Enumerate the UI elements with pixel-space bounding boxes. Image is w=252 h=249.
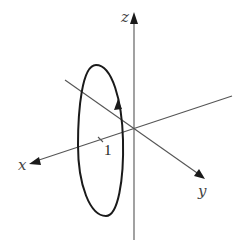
x-axis-arrowhead [29,157,41,165]
curve-direction-arrow-icon [114,99,122,110]
z-axis-label: z [120,8,129,26]
closed-curve [78,65,123,216]
y-axis-arrowhead [194,169,205,179]
ellipse-curve [78,65,123,216]
x-axis: x [18,96,232,174]
tick-label-1: 1 [104,142,112,158]
coordinate-diagram: z y x 1 [0,0,252,249]
x-axis-label: x [18,156,27,174]
z-axis-arrowhead [130,12,138,24]
y-axis-label: y [197,182,207,200]
y-axis: y [65,80,207,200]
